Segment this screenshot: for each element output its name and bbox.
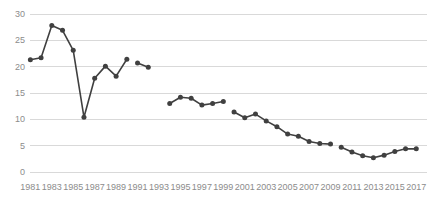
data-point-marker bbox=[114, 74, 119, 79]
data-point-marker bbox=[242, 115, 247, 120]
data-point-marker bbox=[285, 132, 290, 137]
data-point-marker bbox=[135, 60, 140, 65]
x-axis-tick-label: 1987 bbox=[85, 182, 105, 192]
chart-plot-area: 0510152025301981198319851987198919911993… bbox=[0, 0, 435, 201]
x-axis-tick-label: 2013 bbox=[363, 182, 383, 192]
data-point-marker bbox=[92, 76, 97, 81]
data-point-marker bbox=[199, 103, 204, 108]
x-axis-tick-label: 1999 bbox=[213, 182, 233, 192]
series-line-segment bbox=[234, 112, 330, 144]
data-point-marker bbox=[264, 118, 269, 123]
y-axis-tick-label: 5 bbox=[20, 141, 25, 151]
data-point-marker bbox=[103, 64, 108, 69]
y-axis-tick-label: 25 bbox=[15, 35, 25, 45]
x-axis-tick-label: 2015 bbox=[385, 182, 405, 192]
y-axis-tick-label: 0 bbox=[20, 167, 25, 177]
x-axis-tick-label: 1981 bbox=[20, 182, 40, 192]
x-axis-tick-label: 2011 bbox=[342, 182, 361, 192]
data-point-marker bbox=[210, 101, 215, 106]
data-point-marker bbox=[49, 23, 54, 28]
x-axis-tick-label: 2005 bbox=[278, 182, 298, 192]
line-chart: 0510152025301981198319851987198919911993… bbox=[0, 0, 435, 201]
data-point-marker bbox=[414, 146, 419, 151]
x-axis-tick-label: 1991 bbox=[128, 182, 148, 192]
data-point-marker bbox=[371, 155, 376, 160]
data-point-marker bbox=[349, 149, 354, 154]
y-axis-tick-label: 30 bbox=[15, 9, 25, 19]
data-point-marker bbox=[360, 153, 365, 158]
data-point-marker bbox=[71, 48, 76, 53]
data-point-marker bbox=[232, 109, 237, 114]
series-line-segment bbox=[30, 26, 126, 118]
data-point-marker bbox=[146, 65, 151, 70]
x-axis-tick-label: 1989 bbox=[106, 182, 126, 192]
data-point-marker bbox=[81, 115, 86, 120]
data-point-marker bbox=[296, 134, 301, 139]
data-point-marker bbox=[382, 153, 387, 158]
x-axis-tick-label: 1997 bbox=[192, 182, 212, 192]
data-point-marker bbox=[28, 57, 33, 62]
data-point-marker bbox=[339, 145, 344, 150]
x-axis-tick-label: 1983 bbox=[42, 182, 62, 192]
x-axis-tick-label: 1995 bbox=[170, 182, 190, 192]
data-point-marker bbox=[253, 112, 258, 117]
x-axis-tick-label: 2003 bbox=[256, 182, 276, 192]
x-axis-tick-label: 1985 bbox=[63, 182, 83, 192]
y-axis-tick-label: 10 bbox=[15, 114, 25, 124]
data-point-marker bbox=[167, 101, 172, 106]
data-point-marker bbox=[403, 146, 408, 151]
data-point-marker bbox=[274, 124, 279, 129]
series-line-segment bbox=[170, 97, 224, 105]
data-point-marker bbox=[317, 141, 322, 146]
x-axis-tick-label: 2009 bbox=[321, 182, 341, 192]
data-point-marker bbox=[221, 99, 226, 104]
data-point-marker bbox=[307, 139, 312, 144]
x-axis-tick-label: 2017 bbox=[406, 182, 426, 192]
data-point-marker bbox=[178, 95, 183, 100]
data-point-marker bbox=[189, 96, 194, 101]
x-axis-tick-label: 1993 bbox=[149, 182, 169, 192]
y-axis-tick-label: 20 bbox=[15, 62, 25, 72]
data-point-marker bbox=[39, 55, 44, 60]
data-point-marker bbox=[328, 142, 333, 147]
y-axis-tick-label: 15 bbox=[15, 88, 25, 98]
x-axis-tick-label: 2007 bbox=[299, 182, 319, 192]
x-axis-tick-label: 2001 bbox=[235, 182, 255, 192]
data-point-marker bbox=[124, 57, 129, 62]
data-point-marker bbox=[60, 28, 65, 33]
data-point-marker bbox=[392, 149, 397, 154]
